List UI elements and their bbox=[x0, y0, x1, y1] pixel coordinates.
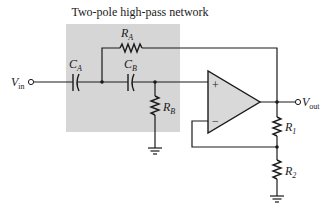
svg-text:R1: R1 bbox=[284, 120, 296, 136]
vin-subscript: in bbox=[18, 82, 24, 91]
r2-subscript: 2 bbox=[292, 171, 296, 180]
r1-subscript: 1 bbox=[292, 127, 296, 136]
vout-terminal: Vout bbox=[295, 95, 320, 111]
high-pass-network-region bbox=[66, 24, 180, 132]
op-amp: + − bbox=[208, 71, 260, 133]
ca-subscript: A bbox=[76, 64, 82, 73]
svg-text:Vin: Vin bbox=[11, 75, 25, 91]
vout-subscript: out bbox=[309, 102, 320, 111]
ra-subscript: A bbox=[127, 33, 133, 42]
ground-icon bbox=[270, 196, 284, 202]
resistor-r1: R1 bbox=[273, 102, 296, 160]
plus-input-sign: + bbox=[212, 78, 219, 92]
ground-icon bbox=[148, 148, 162, 154]
circuit-diagram: Two-pole high-pass network Vin CA CB RA bbox=[0, 0, 332, 214]
cb-subscript: B bbox=[132, 64, 137, 73]
wire-feedback-minus-input bbox=[192, 121, 277, 147]
network-title: Two-pole high-pass network bbox=[71, 5, 208, 19]
rb-subscript: B bbox=[170, 107, 175, 116]
vin-terminal: Vin bbox=[11, 75, 34, 91]
resistor-r2: R2 bbox=[273, 160, 296, 196]
svg-text:R2: R2 bbox=[284, 164, 296, 180]
svg-text:Vout: Vout bbox=[302, 95, 320, 111]
minus-input-sign: − bbox=[212, 114, 219, 128]
